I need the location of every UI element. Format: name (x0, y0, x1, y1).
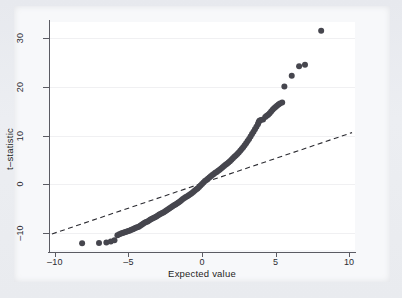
y-tick-label: 20 (15, 67, 25, 107)
x-tick-label: –10 (47, 257, 63, 267)
x-tick-label: 5 (273, 257, 278, 267)
x-tick-label: 0 (199, 257, 204, 267)
y-tick-label: 10 (15, 116, 25, 156)
scatter-points (79, 28, 324, 246)
scatter-point (302, 62, 308, 68)
y-tick (43, 136, 49, 137)
scatter-point (281, 84, 287, 90)
scatter-point (96, 240, 102, 246)
y-tick-label: 30 (15, 18, 25, 58)
y-tick-label: –10 (15, 213, 25, 253)
scatter-point (318, 28, 324, 34)
y-tick (43, 87, 49, 88)
scatter-point (296, 63, 302, 69)
x-tick-label: –5 (123, 257, 133, 267)
scatter-point (79, 240, 85, 246)
x-axis-label: Expected value (168, 268, 236, 279)
scatter-point (111, 237, 117, 243)
x-tick-label: 10 (344, 257, 354, 267)
scatter-point (279, 100, 285, 106)
scatter-point (289, 73, 295, 79)
y-tick-label: 0 (15, 164, 25, 204)
y-tick (43, 184, 49, 185)
y-axis-line (49, 20, 50, 252)
y-tick (43, 38, 49, 39)
y-tick (43, 233, 49, 234)
y-axis-label: t–statistic (4, 128, 15, 170)
qq-plot-figure: –10–50510–100102030 t–statistic Expected… (0, 0, 402, 298)
data-layer (0, 0, 402, 298)
